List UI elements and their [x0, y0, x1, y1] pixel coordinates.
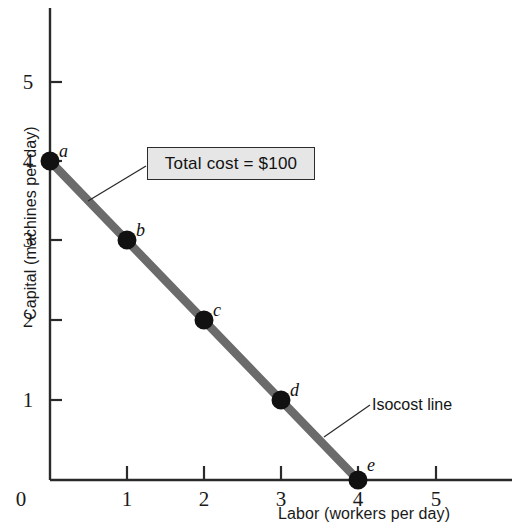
point-label-c: c	[213, 300, 221, 321]
plot-area	[0, 0, 519, 529]
y-tick-label-5: 5	[16, 72, 40, 93]
x-tick-label-1: 1	[114, 489, 140, 510]
point-label-b: b	[136, 220, 145, 241]
isocost-chart-figure: 5 4 3 2 1 0 1 2 3 4 5 Capital (machines …	[0, 0, 519, 529]
x-tick-label-0: 0	[8, 489, 34, 510]
isocost-label-leader-line	[324, 405, 370, 437]
data-point-d	[272, 391, 291, 410]
point-label-d: d	[290, 380, 299, 401]
y-tick-label-1: 1	[16, 390, 40, 411]
y-axis	[50, 8, 62, 480]
total-cost-callout: Total cost = $100	[147, 147, 315, 180]
point-label-a: a	[59, 141, 68, 162]
callout-leader-line	[88, 166, 146, 201]
x-axis-title: Labor (workers per day)	[278, 505, 450, 523]
data-point-b	[118, 231, 137, 250]
data-point-a	[41, 152, 60, 171]
total-cost-callout-text: Total cost = $100	[165, 154, 297, 174]
isocost-line-label: Isocost line	[372, 396, 452, 414]
data-point-c	[195, 311, 214, 330]
point-label-e: e	[367, 455, 375, 476]
y-axis-title: Capital (machines per day)	[22, 126, 40, 320]
x-axis	[50, 466, 512, 480]
x-tick-label-2: 2	[191, 489, 217, 510]
